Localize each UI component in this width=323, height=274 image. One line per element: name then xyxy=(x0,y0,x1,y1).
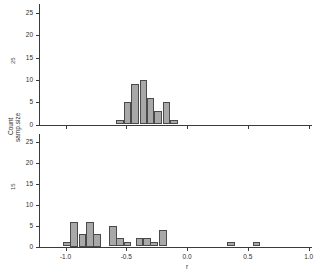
y-axis-tick-label: 10 xyxy=(11,201,33,208)
x-axis-tick xyxy=(187,248,188,251)
x-axis-tick xyxy=(66,248,67,251)
histogram-bar xyxy=(150,242,158,246)
x-axis-title: r xyxy=(172,263,202,270)
y-axis-tick-label: 5 xyxy=(11,222,33,229)
histogram-bar xyxy=(70,222,78,247)
x-axis-tick-label: 0.0 xyxy=(172,253,202,260)
panel-tag-label: 25 xyxy=(10,57,16,64)
histogram-figure: 051015202525 0510152025-1.0-0.50.00.51.0… xyxy=(0,0,323,274)
x-axis-tick xyxy=(126,126,127,129)
y-axis-tick xyxy=(36,58,39,59)
x-axis-tick-label: -0.5 xyxy=(111,253,141,260)
x-axis-tick xyxy=(309,248,310,251)
histogram-bar xyxy=(124,242,132,246)
y-axis-tick xyxy=(36,80,39,81)
x-axis-tick xyxy=(248,126,249,129)
y-axis-tick xyxy=(36,125,39,126)
y-axis-tick-label: 20 xyxy=(11,159,33,166)
histogram-bar xyxy=(227,242,235,246)
histogram-bar xyxy=(93,234,101,247)
y-axis-tick-label: 20 xyxy=(11,31,33,38)
x-axis-line xyxy=(39,247,312,248)
histogram-bar xyxy=(170,120,178,124)
y-axis-tick xyxy=(36,142,39,143)
y-axis-tick xyxy=(36,226,39,227)
x-axis-tick xyxy=(66,126,67,129)
y-axis-line xyxy=(39,4,40,125)
x-axis-tick-label: 0.5 xyxy=(233,253,263,260)
y-axis-tick-label: 10 xyxy=(11,76,33,83)
x-axis-tick-label: -1.0 xyxy=(51,253,81,260)
y-axis-tick xyxy=(36,184,39,185)
y-axis-tick-label: 5 xyxy=(11,98,33,105)
y-axis-line xyxy=(39,134,40,247)
histogram-bar xyxy=(159,230,167,247)
x-axis-tick-label: 1.0 xyxy=(294,253,323,260)
x-axis-tick xyxy=(248,248,249,251)
y-axis-tick xyxy=(36,13,39,14)
y-axis-tick-label: 25 xyxy=(11,9,33,16)
histogram-bar xyxy=(253,242,261,246)
y-axis-title-sampsize: samp.size xyxy=(14,113,22,142)
y-axis-tick xyxy=(36,205,39,206)
x-axis-tick xyxy=(309,126,310,129)
histogram-bar xyxy=(131,84,139,124)
y-axis-tick xyxy=(36,102,39,103)
y-axis-tick xyxy=(36,35,39,36)
y-axis-tick xyxy=(36,247,39,248)
panel-tag-label: 15 xyxy=(10,183,16,190)
y-axis-tick xyxy=(36,163,39,164)
x-axis-line xyxy=(39,125,312,126)
y-axis-tick-label: 0 xyxy=(11,243,33,250)
x-axis-tick xyxy=(187,126,188,129)
histogram-bar xyxy=(154,111,162,124)
x-axis-tick xyxy=(126,248,127,251)
